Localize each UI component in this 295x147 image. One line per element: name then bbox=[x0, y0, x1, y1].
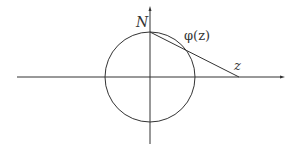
projection-label: φ(z) bbox=[184, 28, 210, 43]
x-axis-arrowhead-icon bbox=[280, 76, 285, 79]
y-axis-arrowhead-icon bbox=[149, 6, 152, 11]
stereographic-projection-diagram: N φ(z) z bbox=[0, 0, 295, 147]
point-z-label: z bbox=[233, 58, 241, 73]
north-pole-label: N bbox=[135, 14, 149, 30]
